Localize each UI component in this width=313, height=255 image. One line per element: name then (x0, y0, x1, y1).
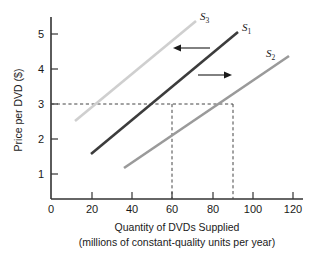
curve-label-s1-subscript: 1 (248, 27, 252, 36)
x-tick-label-0: 0 (48, 203, 54, 215)
y-tick-label-1: 1 (38, 168, 44, 180)
chart-background (0, 0, 313, 255)
curve-label-s3-subscript: 3 (206, 16, 210, 25)
x-tick-label-40: 40 (126, 203, 138, 215)
x-axis-title-line2: (millions of constant-quality units per … (79, 236, 276, 248)
x-tick-label-20: 20 (86, 203, 98, 215)
x-axis-title-line1: Quantity of DVDs Supplied (115, 221, 240, 233)
chart-canvas: 5 4 3 2 1 0 20 40 60 80 100 120 (0, 0, 313, 255)
y-tick-label-4: 4 (38, 63, 44, 75)
x-tick-label-100: 100 (244, 203, 262, 215)
y-tick-label-2: 2 (38, 133, 44, 145)
x-tick-label-80: 80 (207, 203, 219, 215)
y-axis-title: Price per DVD ($) (12, 69, 24, 152)
x-tick-label-60: 60 (166, 203, 178, 215)
curve-label-s2-subscript: 2 (272, 53, 276, 62)
y-tick-label-5: 5 (38, 28, 44, 40)
y-tick-label-3: 3 (38, 98, 44, 110)
x-tick-label-120: 120 (284, 203, 302, 215)
supply-curve-figure: 5 4 3 2 1 0 20 40 60 80 100 120 (0, 0, 313, 255)
